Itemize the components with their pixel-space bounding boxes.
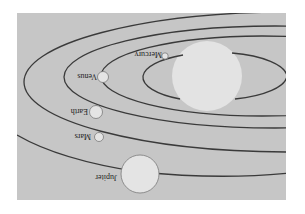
jupiter-label: Jupiter (95, 173, 117, 182)
earth-planet (90, 106, 103, 119)
venus-label: Venus (77, 72, 97, 81)
venus-planet (98, 72, 109, 83)
solar-system-diagram: Mercury Venus Earth Mars Jupiter (17, 13, 286, 200)
mercury-label: Mercury (134, 50, 162, 59)
sun (172, 41, 242, 111)
mars-planet (95, 133, 104, 142)
mars-orbit (24, 13, 286, 152)
earth-label: Earth (71, 107, 88, 116)
jupiter-planet (121, 155, 159, 193)
diagram-panel: Mercury Venus Earth Mars Jupiter (17, 13, 286, 200)
mars-label: Mars (75, 132, 91, 141)
